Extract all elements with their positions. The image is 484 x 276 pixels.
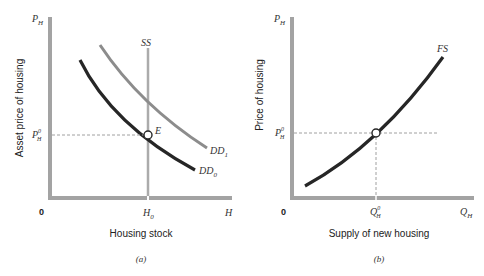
dd0-curve xyxy=(80,60,195,170)
ss-label: SS xyxy=(141,37,151,48)
panel-a-caption: (a) xyxy=(136,254,147,264)
panel-b-caption: (b) xyxy=(374,254,385,264)
panel-b-q0-tick: Q0H xyxy=(370,205,381,219)
panel-a-price-tick: P0H xyxy=(31,128,42,142)
panel-a-x-symbol: H xyxy=(224,207,233,218)
panel-b-x-title: Supply of new housing xyxy=(329,228,430,239)
panel-b-origin: 0 xyxy=(281,207,286,217)
panel-a: PH SS E DD1 DD0 P0H 0 H0 H Housing stock… xyxy=(14,13,233,264)
panel-b-x-symbol: QH xyxy=(460,206,473,220)
fs-label: FS xyxy=(436,43,448,54)
diagram-canvas: PH SS E DD1 DD0 P0H 0 H0 H Housing stock… xyxy=(0,0,484,276)
dd0-label: DD0 xyxy=(198,165,217,179)
panel-a-x-title: Housing stock xyxy=(110,228,174,239)
panel-b: PH FS P0H 0 Q0H QH Supply of new housing… xyxy=(254,13,474,264)
dd1-curve xyxy=(100,45,207,148)
panel-b-y-symbol: PH xyxy=(273,13,286,27)
panel-b-price-tick: P0H xyxy=(274,126,285,140)
dd1-label: DD1 xyxy=(209,145,228,159)
panel-b-y-title: Price of housing xyxy=(254,59,265,131)
fs-curve xyxy=(305,57,443,186)
panel-a-equilibrium-point xyxy=(144,131,152,139)
panel-a-y-symbol: PH xyxy=(31,13,44,27)
equilibrium-label: E xyxy=(154,125,161,136)
panel-a-h0-tick: H0 xyxy=(142,207,154,221)
panel-a-y-title: Asset price of housing xyxy=(14,59,25,157)
panel-a-origin: 0 xyxy=(39,207,44,217)
panel-b-equilibrium-point xyxy=(372,129,380,137)
